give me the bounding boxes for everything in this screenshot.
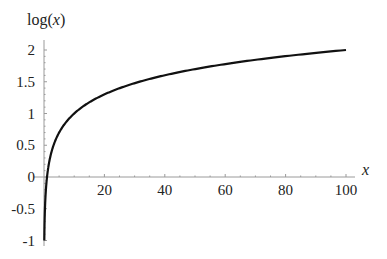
x-axis-label: x (361, 161, 369, 178)
y-tick-label: 1 (28, 106, 36, 122)
log-curve (44, 50, 346, 241)
y-tick-label: -1 (23, 233, 36, 249)
x-tick-label: 20 (97, 182, 112, 198)
x-tick-label: 60 (218, 182, 233, 198)
x-tick-label: 80 (278, 182, 293, 198)
y-tick-label: 0 (28, 169, 36, 185)
x-ticks: 20406080100 (59, 174, 357, 198)
x-tick-label: 100 (335, 182, 358, 198)
y-ticks: -1-0.500.511.52 (11, 42, 47, 249)
log-chart: 20406080100 x -1-0.500.511.52 log(x) (0, 0, 387, 259)
y-tick-label: 2 (28, 42, 36, 58)
y-tick-label: 1.5 (16, 74, 35, 90)
y-tick-label: -0.5 (11, 201, 35, 217)
x-axis: 20406080100 x (34, 161, 369, 198)
y-tick-label: 0.5 (16, 137, 35, 153)
y-axis-label: log(x) (27, 11, 65, 29)
x-tick-label: 40 (157, 182, 172, 198)
y-axis: -1-0.500.511.52 log(x) (11, 11, 65, 249)
